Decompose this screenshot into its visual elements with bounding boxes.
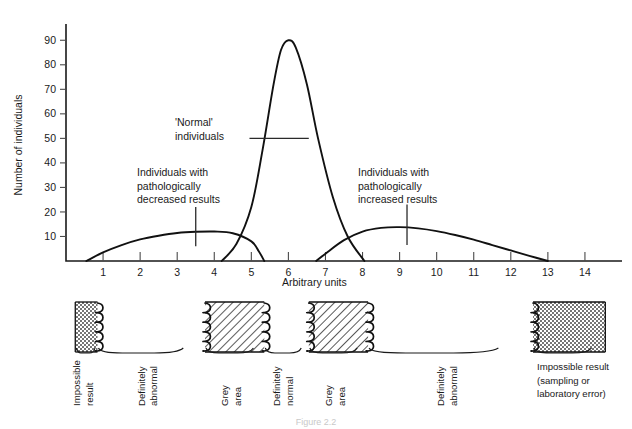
x-axis-tick-label: 4 <box>211 266 217 278</box>
annotation-normal-individuals: 'Normal'individuals <box>175 116 309 142</box>
x-axis-tick-label: 12 <box>505 266 517 278</box>
annotation-decreased-results: Individuals withpathologicallydecreased … <box>137 166 220 246</box>
annotation-line: increased results <box>358 193 437 205</box>
segment-label: Impossible <box>71 360 82 406</box>
x-axis-tick-label: 2 <box>137 266 143 278</box>
band-segment-grey-area-high: Greyarea <box>307 302 374 406</box>
y-axis-tick-label: 70 <box>44 83 56 95</box>
y-axis-tick-label: 60 <box>44 107 56 119</box>
segment-fill <box>533 302 605 352</box>
band-segment-definitely-normal: Definitelynormal <box>265 348 301 406</box>
y-axis-tick-label: 10 <box>44 230 56 242</box>
segment-brace <box>265 348 301 353</box>
x-axis-tick-label: 3 <box>174 266 180 278</box>
chart-axes <box>66 24 622 261</box>
band-segment-impossible-result: Impossibleresult <box>71 302 103 406</box>
plot-area: 1020304050607080901234567891011121314Arb… <box>12 24 622 288</box>
band-segment-definitely-abnormal-low: Definitelyabnormal <box>99 348 184 406</box>
distribution-curve-2 <box>222 40 365 261</box>
distribution-curve-3 <box>316 227 548 261</box>
annotation-line: 'Normal' <box>175 116 213 128</box>
annotation-line: pathologically <box>358 180 422 192</box>
segment-label: area <box>232 386 243 406</box>
figure-caption: Figure 2.2 <box>296 417 337 427</box>
annotation-line: Individuals with <box>358 166 429 178</box>
segment-label: Grey <box>219 385 230 406</box>
x-axis-tick-label: 1 <box>100 266 106 278</box>
segment-label: abnormal <box>148 366 159 406</box>
segment-label: Definitely <box>136 366 147 406</box>
x-axis-tick-label: 14 <box>579 266 591 278</box>
segment-fill <box>309 302 368 352</box>
annotation-line: Individuals with <box>137 166 208 178</box>
band-segment-definitely-abnormal-high: Definitelyabnormal <box>369 348 498 406</box>
segment-label: Definitely <box>435 366 446 406</box>
segment-label: Impossible result <box>537 361 609 372</box>
x-axis-tick-label: 5 <box>248 266 254 278</box>
y-axis-tick-label: 50 <box>44 132 56 144</box>
segment-label: abnormal <box>448 366 459 406</box>
clinical-results-distribution-figure: 1020304050607080901234567891011121314Arb… <box>0 0 632 429</box>
classification-band: ImpossibleresultDefinitelyabnormalGreyar… <box>71 302 609 406</box>
x-axis-tick-label: 13 <box>542 266 554 278</box>
segment-label: area <box>336 386 347 406</box>
band-segment-grey-area-low: Greyarea <box>203 302 270 406</box>
figure-container: 1020304050607080901234567891011121314Arb… <box>0 0 632 429</box>
x-axis-tick-label: 8 <box>360 266 366 278</box>
segment-brace <box>99 348 184 353</box>
annotation-line: decreased results <box>137 193 220 205</box>
distribution-curve-1 <box>86 231 264 261</box>
segment-brace <box>369 348 498 353</box>
x-axis-tick-label: 10 <box>431 266 443 278</box>
segment-label: Definitely <box>271 366 282 406</box>
x-axis-title: Arbitrary units <box>282 276 347 288</box>
band-segment-impossible-result-high: Impossible result(sampling orlaboratory … <box>531 302 609 399</box>
annotation-increased-results: Individuals withpathologicallyincreased … <box>358 166 437 245</box>
segment-fill <box>205 302 264 352</box>
y-axis-tick-label: 90 <box>44 34 56 46</box>
x-axis-tick-label: 11 <box>468 266 479 278</box>
y-axis-tick-label: 30 <box>44 181 56 193</box>
y-axis-tick-label: 80 <box>44 58 56 70</box>
segment-label: laboratory error) <box>537 388 606 399</box>
y-axis-tick-label: 40 <box>44 156 56 168</box>
y-axis-tick-label: 20 <box>44 206 56 218</box>
segment-fill <box>75 302 97 352</box>
annotation-line: pathologically <box>137 180 201 192</box>
y-axis-title: Number of individuals <box>12 95 24 196</box>
segment-label: (sampling or <box>537 375 591 386</box>
annotation-line: individuals <box>175 130 224 142</box>
segment-label: normal <box>284 377 295 406</box>
segment-label: result <box>84 382 95 406</box>
segment-label: Grey <box>323 385 334 406</box>
x-axis-tick-label: 9 <box>397 266 403 278</box>
